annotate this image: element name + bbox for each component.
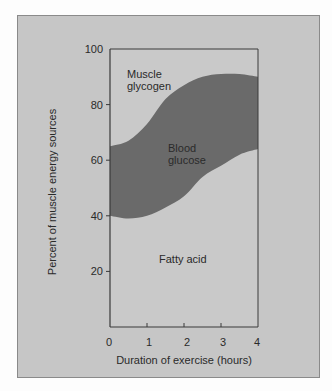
fatty-acid-label: Fatty acid (159, 253, 207, 265)
svg-text:3: 3 (220, 336, 226, 348)
muscle-glycogen-label: Muscle glycogen (127, 68, 171, 92)
svg-text:4: 4 (254, 336, 260, 348)
x-tick-labels: 0 1 2 3 4 (106, 336, 260, 348)
svg-text:20: 20 (91, 265, 103, 277)
svg-text:1: 1 (146, 336, 152, 348)
y-tick-labels: 20 40 60 80 100 (85, 43, 103, 277)
svg-text:100: 100 (85, 43, 103, 55)
x-axis-label: Duration of exercise (hours) (116, 354, 252, 366)
svg-text:80: 80 (91, 99, 103, 111)
chart: 20 40 60 80 100 0 1 2 3 4 Duration of ex… (0, 0, 332, 391)
y-axis-label: Percent of muscle energy sources (46, 108, 58, 275)
svg-text:40: 40 (91, 210, 103, 222)
svg-text:2: 2 (184, 336, 190, 348)
svg-text:0: 0 (106, 336, 112, 348)
svg-text:60: 60 (91, 154, 103, 166)
